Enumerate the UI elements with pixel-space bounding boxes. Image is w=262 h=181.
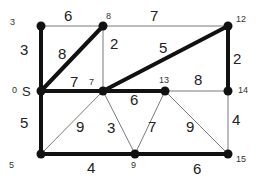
node-7	[99, 87, 108, 96]
edge-weight-S-8: 8	[58, 45, 66, 62]
edge-weight-12-14: 2	[233, 50, 241, 67]
node-9	[131, 150, 140, 159]
node-label-14: 14	[238, 85, 248, 95]
edge-weight-9-15: 6	[193, 160, 201, 177]
edge-weight-7-13: 6	[130, 91, 138, 108]
node-label-12: 12	[236, 14, 246, 24]
edge-weight-7-12: 5	[159, 39, 167, 56]
node-label-13: 13	[159, 75, 169, 85]
node-label-S: 0	[12, 85, 17, 95]
edge-weight-S-3: 3	[20, 41, 28, 58]
node-label-15: 15	[236, 154, 246, 164]
node-S	[37, 87, 46, 96]
node-label-5: 5	[9, 160, 14, 170]
node-15	[224, 150, 233, 159]
edge-weight-5-7: 9	[76, 118, 84, 135]
edge-weight-13-15: 9	[186, 118, 194, 135]
node-label-9: 9	[131, 160, 136, 170]
edge-weight-8-7: 2	[110, 35, 118, 52]
node-8	[99, 22, 108, 31]
edge-weight-5-9: 4	[87, 159, 95, 176]
node-13	[161, 87, 170, 96]
edge-weight-14-15: 4	[232, 111, 240, 128]
node-label-8: 8	[106, 11, 111, 21]
graph-diagram: 367825276859379446 0S3812713145915	[0, 0, 262, 181]
node-14	[224, 87, 233, 96]
edge-weight-13-9: 7	[148, 118, 156, 135]
edge-weight-S-7: 7	[70, 73, 78, 90]
edge-weight-S-5: 5	[20, 114, 28, 131]
edge-weight-8-12: 7	[150, 7, 158, 24]
node-5	[37, 150, 46, 159]
edge-weight-3-8: 6	[64, 7, 72, 24]
edge-13-15	[165, 91, 228, 154]
node-label-3: 3	[10, 17, 15, 27]
edge-weight-7-9: 3	[107, 119, 115, 136]
source-node-label: S	[22, 84, 31, 99]
node-12	[224, 22, 233, 31]
edge-weight-13-14: 8	[194, 71, 202, 88]
edge-5-7	[41, 91, 103, 154]
node-3	[37, 22, 46, 31]
node-label-7: 7	[89, 77, 94, 87]
